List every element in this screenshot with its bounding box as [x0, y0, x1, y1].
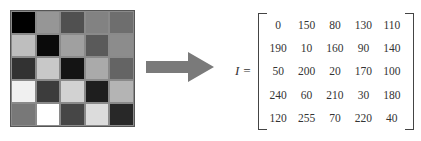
- pixel-cell: [109, 57, 134, 80]
- right-bracket: [405, 13, 414, 130]
- matrix-cell: 100: [378, 60, 406, 83]
- pixel-cell: [60, 34, 85, 57]
- pixel-cell: [85, 57, 110, 80]
- pixel-cell: [109, 34, 134, 57]
- matrix-cell: 190: [264, 36, 292, 59]
- matrix-cell: 120: [264, 107, 292, 130]
- pixel-cell: [36, 34, 61, 57]
- pixel-cell: [36, 11, 61, 34]
- matrix-cell: 20: [321, 60, 349, 83]
- pixel-cell: [60, 80, 85, 103]
- pixel-cell: [85, 11, 110, 34]
- pixel-cell: [11, 103, 36, 126]
- matrix-cell: 180: [378, 83, 406, 106]
- matrix-cell: 30: [349, 83, 377, 106]
- pixel-cell: [36, 80, 61, 103]
- matrix-cell: 160: [321, 36, 349, 59]
- matrix-cell: 130: [349, 13, 377, 36]
- pixel-cell: [85, 80, 110, 103]
- right-arrow-icon: [146, 52, 214, 82]
- matrix-cell: 40: [378, 107, 406, 130]
- pixel-cell: [109, 103, 134, 126]
- matrix-cell: 10: [292, 36, 320, 59]
- pixel-cell: [11, 11, 36, 34]
- grayscale-image-grid: [10, 10, 135, 127]
- matrix-cell: 240: [264, 83, 292, 106]
- matrix-cell: 150: [292, 13, 320, 36]
- pixel-cell: [11, 57, 36, 80]
- matrix-cell: 90: [349, 36, 377, 59]
- pixel-cell: [85, 103, 110, 126]
- matrix-cell: 220: [349, 107, 377, 130]
- pixel-cell: [60, 11, 85, 34]
- pixel-cell: [36, 57, 61, 80]
- pixel-matrix: 0150801301101901016090140502002017010024…: [258, 13, 414, 130]
- pixel-cell: [109, 80, 134, 103]
- matrix-cell: 140: [378, 36, 406, 59]
- matrix-cell: 70: [321, 107, 349, 130]
- matrix-cell: 50: [264, 60, 292, 83]
- matrix-cell: 0: [264, 13, 292, 36]
- pixel-cell: [60, 103, 85, 126]
- matrix-cell: 200: [292, 60, 320, 83]
- matrix-values: 0150801301101901016090140502002017010024…: [264, 13, 406, 130]
- pixel-cell: [36, 103, 61, 126]
- pixel-cell: [11, 34, 36, 57]
- pixel-cell: [85, 34, 110, 57]
- matrix-cell: 110: [378, 13, 406, 36]
- pixel-cell: [109, 11, 134, 34]
- pixel-cell: [60, 57, 85, 80]
- matrix-label: I =: [235, 63, 251, 79]
- matrix-cell: 80: [321, 13, 349, 36]
- matrix-cell: 255: [292, 107, 320, 130]
- matrix-cell: 60: [292, 83, 320, 106]
- matrix-cell: 210: [321, 83, 349, 106]
- pixel-cell: [11, 80, 36, 103]
- matrix-cell: 170: [349, 60, 377, 83]
